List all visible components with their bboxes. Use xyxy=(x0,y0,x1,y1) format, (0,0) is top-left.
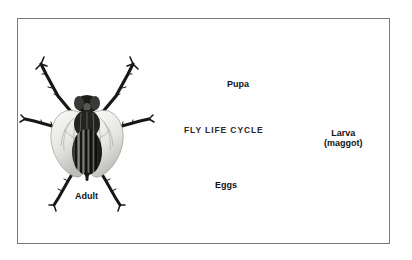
larva-label: Larva (maggot) xyxy=(324,128,363,148)
eggs-label: Eggs xyxy=(215,180,237,190)
larva-label-line2: (maggot) xyxy=(324,138,363,148)
larva-label-line1: Larva xyxy=(324,128,363,138)
fly-life-cycle-figure: FLY LIFE CYCLE Pupa Larva (maggot) Eggs … xyxy=(0,0,412,260)
adult-fly-illustration xyxy=(20,57,154,211)
adult-label: Adult xyxy=(75,191,98,201)
page-title: FLY LIFE CYCLE xyxy=(184,126,264,136)
pupa-label: Pupa xyxy=(227,79,249,89)
